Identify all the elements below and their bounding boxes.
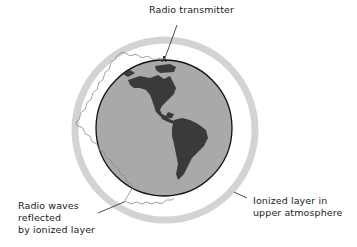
label-text: upper atmosphere — [253, 207, 342, 219]
label-radio-transmitter: Radio transmitter — [149, 4, 234, 16]
label-text: Ionized layer in — [253, 195, 342, 207]
label-ionized-layer: Ionized layer in upper atmosphere — [253, 195, 342, 219]
leader-layer — [234, 192, 247, 198]
label-text: Radio transmitter — [149, 4, 234, 15]
label-text: reflected — [18, 212, 95, 224]
label-text: Radio waves — [18, 200, 95, 212]
label-radio-waves: Radio waves reflected by ionized layer — [18, 200, 95, 236]
label-text: by ionized layer — [18, 224, 95, 236]
